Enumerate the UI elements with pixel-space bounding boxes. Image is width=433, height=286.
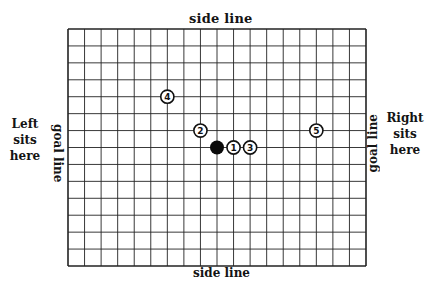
player-marker-3: 3 — [244, 141, 257, 154]
left-seat-note: Left sits here — [8, 116, 42, 164]
right-seat-line-2: sits — [385, 126, 425, 142]
top-side-line-label: side line — [189, 12, 253, 25]
right-seat-line-1: Right — [385, 110, 425, 126]
left-seat-line-1: Left — [8, 116, 42, 132]
bottom-side-line-label: side line — [193, 267, 250, 279]
player-marker-1: 1 — [227, 141, 240, 154]
player-number: 3 — [247, 143, 253, 153]
left-seat-line-2: sits — [8, 132, 42, 148]
player-number: 4 — [164, 92, 170, 102]
right-goal-line-label: goal line — [367, 114, 379, 172]
filled-circle-icon — [210, 141, 224, 155]
ball-marker — [210, 141, 224, 155]
right-seat-note: Right sits here — [385, 110, 425, 158]
player-marker-2: 2 — [194, 124, 207, 137]
player-number: 1 — [230, 143, 236, 153]
left-seat-line-3: here — [8, 148, 42, 164]
right-seat-line-3: here — [385, 142, 425, 158]
player-number: 5 — [313, 126, 319, 136]
pieces-layer: 42135 — [161, 90, 323, 154]
player-marker-5: 5 — [310, 124, 323, 137]
player-marker-4: 4 — [161, 90, 174, 103]
player-number: 2 — [197, 126, 203, 136]
left-goal-line-label: goal line — [52, 124, 64, 182]
